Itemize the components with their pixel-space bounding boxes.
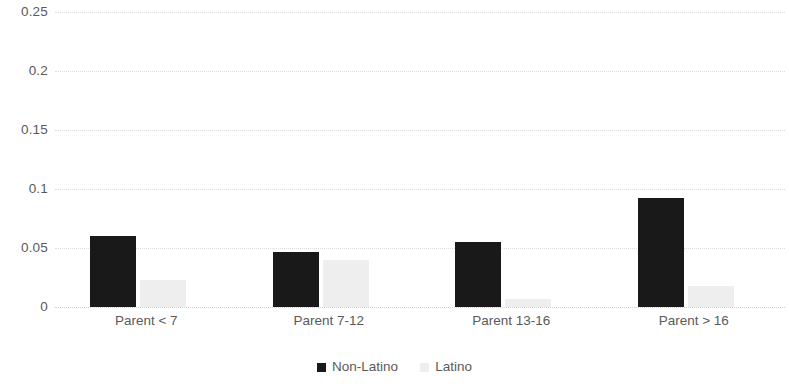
gridline: [55, 307, 785, 309]
x-tick-label: Parent < 7: [55, 312, 238, 330]
bar-group: [638, 12, 734, 307]
bars-layer: [55, 12, 785, 307]
bar-non-latino: [273, 252, 319, 307]
y-tick-label: 0.2: [0, 64, 48, 78]
legend-swatch-icon: [420, 363, 429, 372]
x-tick-label: Parent > 16: [603, 312, 786, 330]
bar-latino: [688, 286, 734, 307]
legend-item-non-latino[interactable]: Non-Latino: [317, 359, 398, 375]
y-tick-label: 0.05: [0, 241, 48, 255]
y-tick-label: 0: [0, 300, 48, 314]
bar-group: [273, 12, 369, 307]
bar-latino: [505, 299, 551, 307]
bar-non-latino: [455, 242, 501, 307]
bar-group: [455, 12, 551, 307]
y-tick-label: 0.25: [0, 5, 48, 19]
x-axis: Parent < 7Parent 7-12Parent 13-16Parent …: [55, 312, 785, 338]
x-tick-label: Parent 7-12: [238, 312, 421, 330]
x-tick-label: Parent 13-16: [420, 312, 603, 330]
bar-chart: 00.050.10.150.20.25 Parent < 7Parent 7-1…: [0, 0, 789, 384]
legend-label: Non-Latino: [332, 359, 398, 375]
legend-swatch-icon: [317, 363, 326, 372]
bar-latino: [323, 260, 369, 307]
bar-group: [90, 12, 186, 307]
chart-legend: Non-LatinoLatino: [0, 356, 789, 378]
legend-label: Latino: [435, 359, 472, 375]
bar-latino: [140, 280, 186, 307]
plot-area: [55, 12, 785, 307]
legend-item-latino[interactable]: Latino: [420, 359, 472, 375]
y-tick-label: 0.15: [0, 123, 48, 137]
bar-non-latino: [90, 236, 136, 307]
y-axis: 00.050.10.150.20.25: [0, 0, 48, 320]
y-tick-label: 0.1: [0, 182, 48, 196]
bar-non-latino: [638, 198, 684, 307]
